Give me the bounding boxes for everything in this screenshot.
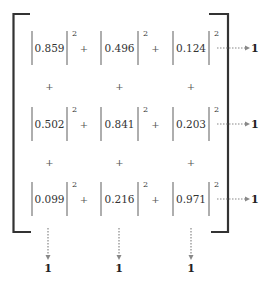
plus-operator: + bbox=[45, 157, 53, 168]
cell-value: 0.099 bbox=[34, 193, 64, 205]
exponent: 2 bbox=[72, 29, 77, 38]
cell-value: 0.841 bbox=[104, 118, 134, 130]
plus-operator: + bbox=[45, 81, 53, 92]
exponent: 2 bbox=[143, 105, 148, 114]
arrow-head-icon bbox=[117, 255, 122, 260]
arrow-head-icon bbox=[245, 122, 250, 127]
exponent: 2 bbox=[143, 180, 148, 189]
cell-value: 0.216 bbox=[104, 193, 134, 205]
row-sum-label: 1 bbox=[251, 193, 259, 206]
exponent: 2 bbox=[143, 29, 148, 38]
cell-value: 0.971 bbox=[176, 193, 206, 205]
plus-operator: + bbox=[187, 157, 195, 168]
column-sum-label: 1 bbox=[44, 262, 52, 275]
exponent: 2 bbox=[72, 180, 77, 189]
arrow-head-icon bbox=[245, 46, 250, 51]
exponent: 2 bbox=[214, 180, 219, 189]
row-sum-label: 1 bbox=[251, 42, 259, 55]
cell-value: 0.496 bbox=[104, 42, 134, 54]
plus-operator: + bbox=[151, 43, 159, 54]
cell-value: 0.502 bbox=[34, 118, 64, 130]
matrix-cell: 0.8412 bbox=[101, 105, 148, 141]
plus-operator: + bbox=[80, 119, 88, 130]
left-bracket bbox=[14, 14, 32, 232]
arrow-head-icon bbox=[46, 255, 51, 260]
matrix-cell: 0.0992 bbox=[32, 180, 77, 216]
column-sum-label: 1 bbox=[115, 262, 123, 275]
plus-operator: + bbox=[115, 157, 123, 168]
plus-operator: + bbox=[80, 43, 88, 54]
row-sum-label: 1 bbox=[251, 118, 259, 131]
arrow-head-icon bbox=[245, 197, 250, 202]
exponent: 2 bbox=[214, 29, 219, 38]
exponent: 2 bbox=[214, 105, 219, 114]
plus-operator: + bbox=[151, 119, 159, 130]
matrix-cell: 0.8592 bbox=[32, 29, 77, 65]
column-sum-label: 1 bbox=[187, 262, 195, 275]
matrix-diagram: 0.8592+0.4962+0.12420.5022+0.8412+0.2032… bbox=[0, 0, 264, 281]
matrix-cell: 0.9712 bbox=[173, 180, 219, 216]
cell-value: 0.859 bbox=[34, 42, 64, 54]
plus-operator: + bbox=[80, 194, 88, 205]
matrix-cell: 0.2162 bbox=[101, 180, 148, 216]
matrix-cell: 0.4962 bbox=[101, 29, 148, 65]
exponent: 2 bbox=[72, 105, 77, 114]
cell-value: 0.203 bbox=[176, 118, 206, 130]
arrow-head-icon bbox=[189, 255, 194, 260]
plus-operator: + bbox=[115, 81, 123, 92]
matrix-cell: 0.5022 bbox=[32, 105, 77, 141]
plus-operator: + bbox=[151, 194, 159, 205]
matrix-cell: 0.2032 bbox=[173, 105, 219, 141]
matrix-cell: 0.1242 bbox=[173, 29, 219, 65]
plus-operator: + bbox=[187, 81, 195, 92]
cell-value: 0.124 bbox=[176, 42, 206, 54]
